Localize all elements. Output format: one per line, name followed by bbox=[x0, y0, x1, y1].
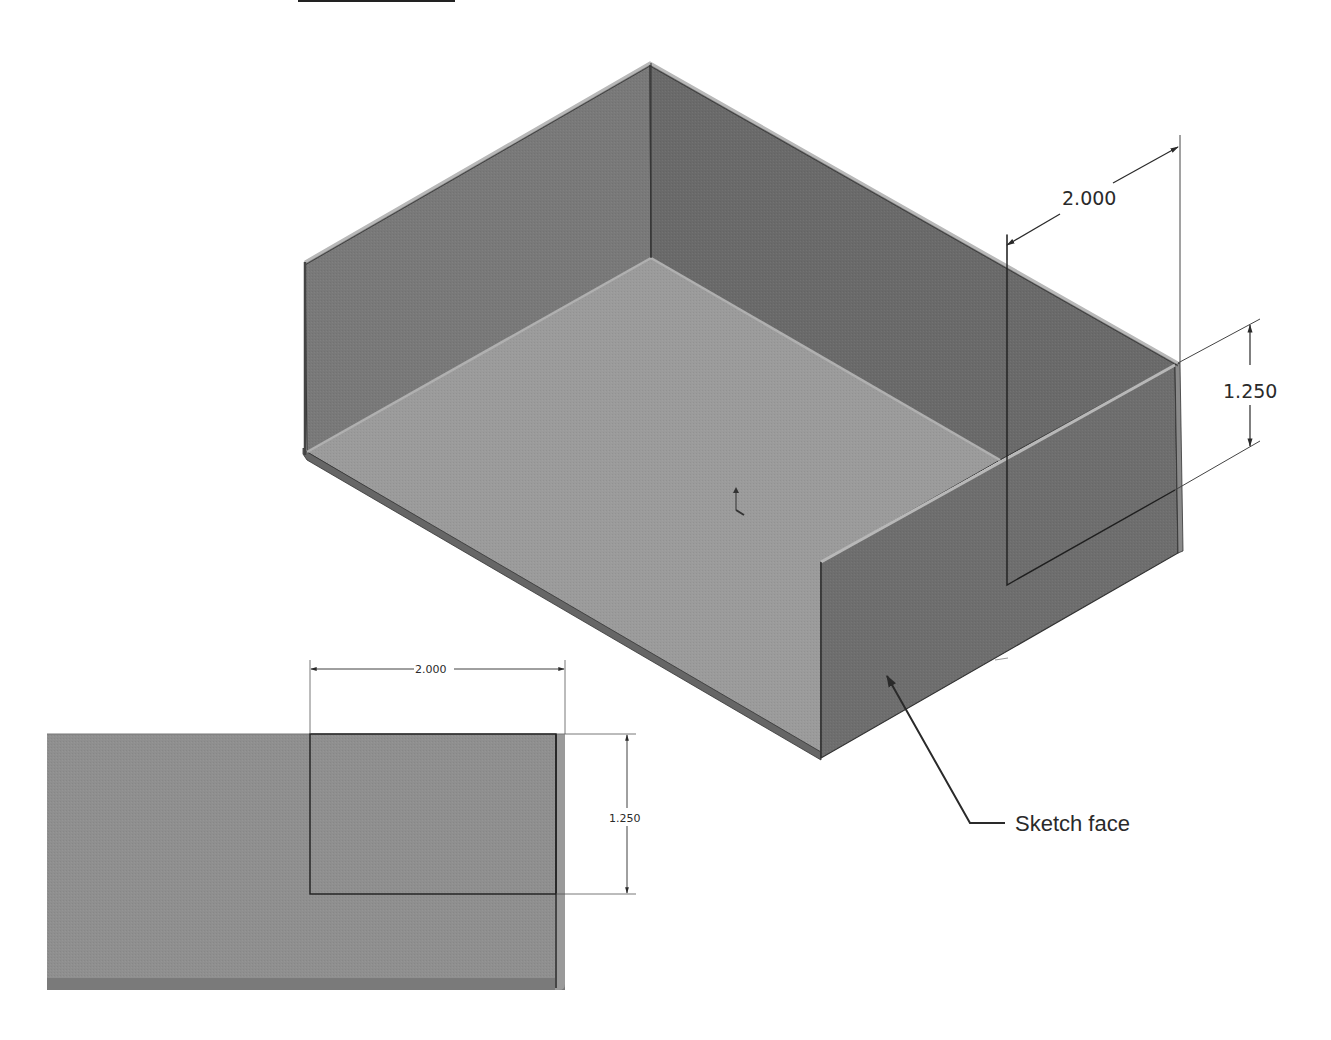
face-origin-icon bbox=[995, 658, 1008, 660]
iso-height-value: 1.250 bbox=[1223, 380, 1277, 402]
iso-width-value: 2.000 bbox=[1062, 187, 1116, 209]
sketch-face-callout: Sketch face bbox=[887, 676, 1130, 836]
front-dimension-height: 1.250 bbox=[556, 734, 641, 894]
front-view bbox=[47, 734, 565, 990]
callout-label: Sketch face bbox=[1015, 811, 1130, 836]
front-width-value: 2.000 bbox=[415, 663, 447, 676]
iso-box bbox=[303, 63, 1183, 760]
front-dimension-width: 2.000 bbox=[310, 660, 565, 734]
front-height-value: 1.250 bbox=[609, 812, 641, 825]
drawing-canvas: 2.000 1.250 Sketch face 2.000 bbox=[0, 0, 1331, 1040]
iso-dimension-height: 1.250 bbox=[1175, 319, 1277, 490]
